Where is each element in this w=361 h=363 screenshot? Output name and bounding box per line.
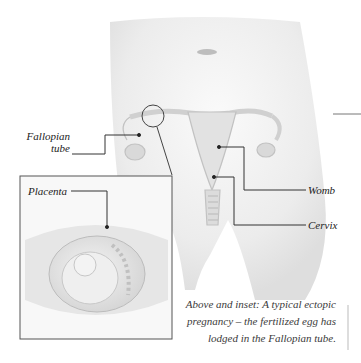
caption-line3: lodged in the Fallopian tube. [176, 330, 336, 347]
caption: Above and inset: A typical ectopic pregn… [176, 296, 336, 347]
label-fallopian-line1: Fallopian [18, 130, 70, 142]
label-fallopian-line2: tube [18, 142, 70, 154]
inset-panel [20, 176, 172, 339]
navel [197, 49, 217, 55]
label-cervix: Cervix [308, 219, 337, 231]
label-placenta: Placenta [28, 185, 67, 197]
caption-line1: Above and inset: A typical ectopic [176, 296, 336, 313]
label-womb: Womb [308, 184, 335, 196]
ectopic-pregnancy-diagram: Fallopian tube Placenta Womb Cervix Abov… [0, 0, 361, 363]
caption-line2: pregnancy – the fertilized egg has [176, 313, 336, 330]
label-fallopian-tube: Fallopian tube [18, 130, 70, 154]
